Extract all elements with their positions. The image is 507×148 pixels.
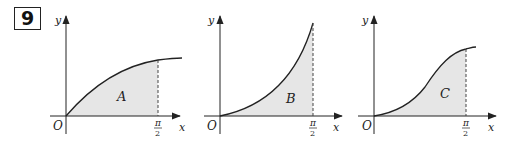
x-axis-label-c: x [488, 121, 495, 134]
region-label-c: C [440, 86, 450, 101]
graph-c: C y x O π 2 [358, 14, 496, 138]
region-label-b: B [285, 91, 296, 106]
origin-label-a: O [53, 119, 63, 133]
shaded-region-c [374, 49, 466, 116]
x-axis-label-a: x [179, 121, 186, 134]
graph-a: A y x O π 2 [50, 14, 186, 138]
two-label-a: 2 [155, 129, 160, 138]
two-label-b: 2 [310, 129, 315, 138]
region-label-a: A [116, 89, 126, 104]
graph-b: B y x O π 2 [204, 14, 342, 138]
shaded-region-a [66, 60, 158, 116]
graphs-figure: A y x O π 2 B y x O π 2 C y x O π 2 [0, 0, 507, 148]
y-axis-label-c: y [361, 14, 369, 27]
pi-label-b: π [309, 118, 317, 128]
two-label-c: 2 [463, 129, 468, 138]
pi-label-a: π [154, 118, 162, 128]
shaded-region-b [220, 23, 313, 116]
pi-label-c: π [462, 118, 470, 128]
origin-label-c: O [362, 119, 372, 133]
y-axis-label-a: y [54, 14, 62, 27]
origin-label-b: O [207, 119, 217, 133]
x-axis-label-b: x [333, 121, 340, 134]
y-axis-label-b: y [207, 14, 215, 27]
